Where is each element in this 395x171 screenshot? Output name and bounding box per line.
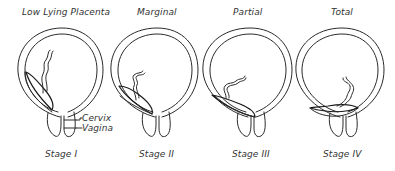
stage-label-3: Stage III (232, 149, 270, 159)
cervix-label: Cervix (82, 113, 111, 123)
stage-label-1: Stage I (45, 149, 77, 159)
panel-title-total: Total (331, 7, 353, 17)
uterus-stage-3 (203, 28, 292, 137)
panel-title-partial: Partial (233, 7, 262, 17)
vagina-label: Vagina (82, 123, 113, 133)
panel-title-low-lying: Low Lying Placenta (22, 7, 110, 17)
stage-label-2: Stage II (139, 149, 174, 159)
stage-label-4: Stage IV (323, 149, 361, 159)
placenta-previa-diagram: Low Lying Placenta Marginal Partial Tota… (0, 0, 395, 171)
uterus-illustrations (0, 0, 395, 171)
uterus-stage-4 (296, 28, 384, 137)
panel-title-marginal: Marginal (137, 7, 177, 17)
uterus-stage-2 (111, 28, 198, 137)
